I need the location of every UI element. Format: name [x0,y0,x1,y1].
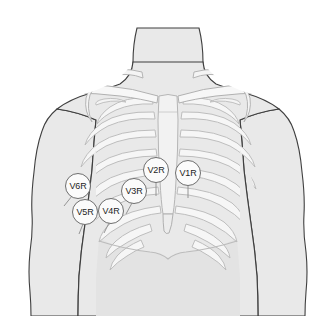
electrode-label-v2r: V2R [148,166,165,175]
torso-anatomy-illustration [0,0,336,316]
electrode-label-v4r: V4R [103,207,120,216]
electrode-marker-v4r[interactable]: V4R [98,198,124,224]
chest-electrode-diagram: V1R V2R V3R V4R V5R V6R [0,0,336,316]
electrode-label-v1r: V1R [180,169,197,178]
sternum [158,95,178,215]
electrode-label-v5r: V5R [77,208,94,217]
electrode-marker-v3r[interactable]: V3R [121,178,147,204]
electrode-marker-v1r[interactable]: V1R [175,160,201,186]
electrode-marker-v2r[interactable]: V2R [143,157,169,183]
electrode-label-v6r: V6R [70,182,87,191]
electrode-marker-v5r[interactable]: V5R [72,199,98,225]
electrode-label-v3r: V3R [126,187,143,196]
electrode-marker-v6r[interactable]: V6R [65,173,91,199]
